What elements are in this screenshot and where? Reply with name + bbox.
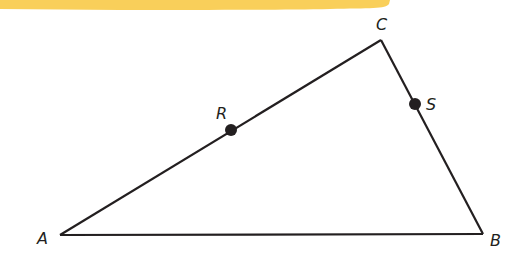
side-AB xyxy=(60,234,483,235)
yellow-banner xyxy=(0,0,390,10)
side-AC xyxy=(60,40,381,235)
point-label-R: R xyxy=(216,104,227,123)
side-CB xyxy=(381,40,483,234)
point-R-dot xyxy=(225,124,237,136)
vertex-label-B: B xyxy=(490,231,501,250)
triangle-diagram: C R S A B xyxy=(0,0,526,274)
vertex-label-A: A xyxy=(36,229,48,248)
point-S-dot xyxy=(409,98,421,110)
vertex-label-C: C xyxy=(376,15,388,34)
point-label-S: S xyxy=(426,95,436,114)
